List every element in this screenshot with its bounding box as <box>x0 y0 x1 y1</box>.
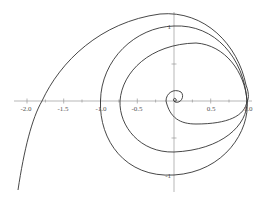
y-tick-label: -1 <box>165 172 171 180</box>
x-tick-label: 0.5 <box>207 105 216 113</box>
x-tick-label: 1.0 <box>244 105 253 113</box>
spiral-chart: -2.0 -1.5 -1.0 -0.5 0.5 1.0 1 -1 <box>0 0 259 197</box>
x-tick-label: -1.5 <box>57 105 69 113</box>
spiral-curve <box>18 14 248 190</box>
x-tick-label: -1.0 <box>95 105 107 113</box>
x-tick-label: -2.0 <box>20 105 32 113</box>
y-tick-label: 1 <box>168 23 172 31</box>
x-tick-labels: -2.0 -1.5 -1.0 -0.5 0.5 1.0 <box>20 105 252 113</box>
x-tick-label: -0.5 <box>131 105 143 113</box>
